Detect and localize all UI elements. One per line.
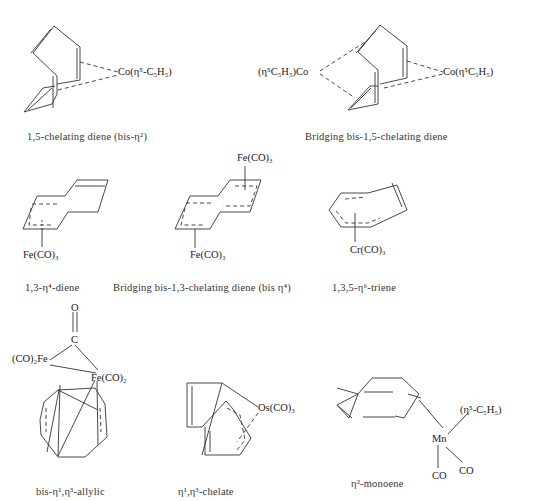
s2-co-left-label: (η⁵C₅H₅)Co xyxy=(258,66,308,77)
s6-fe-right-label: Fe(CO)₂ xyxy=(91,372,127,383)
s8-mn-label: Mn xyxy=(432,433,447,444)
s8-co-2-label: CO xyxy=(459,465,474,476)
caption-s6: bis-η¹,η³-allylic xyxy=(36,486,105,497)
caption-s5: 1,3,5-η⁶-triene xyxy=(332,282,396,293)
structure-5-triene-cr xyxy=(329,183,407,242)
structure-1-cod-co xyxy=(24,26,118,112)
s5-cr-label: Cr(CO)₃ xyxy=(350,244,386,255)
caption-s4: Bridging bis-1,3-chelating diene (bis η⁴… xyxy=(113,282,291,293)
s8-co-1-label: CO xyxy=(432,470,447,481)
caption-s2: Bridging bis-1,5-chelating diene xyxy=(305,131,448,142)
s8-cp-label: (η⁵-C₅H₅) xyxy=(460,404,502,415)
s4-fe-top-label: Fe(CO)₃ xyxy=(237,152,273,163)
structure-8-monoene-mn xyxy=(337,378,468,468)
s6-c-label: C xyxy=(71,334,78,345)
structure-4-bridging-diene-fe xyxy=(175,166,261,248)
structure-3-diene-fe xyxy=(23,180,108,247)
s4-fe-bottom-label: Fe(CO)₃ xyxy=(190,249,226,260)
s3-fe-label: Fe(CO)₃ xyxy=(23,249,59,260)
caption-s7: η¹,η³-chelate xyxy=(178,486,234,497)
caption-s8: η²-monoene xyxy=(351,478,404,489)
s6-o-label: O xyxy=(71,302,79,313)
caption-s1: 1,5-chelating diene (bis-η²) xyxy=(27,131,147,142)
caption-s3: 1,3-η⁴-diene xyxy=(25,282,79,293)
s7-os-label: Os(CO)₃ xyxy=(258,402,295,413)
s1-co-label: Co(η⁵-C₅H₅) xyxy=(118,66,172,77)
structure-7-chelate-os xyxy=(187,383,258,455)
structure-2-bridging-cod xyxy=(320,25,443,110)
s2-co-right-label: Co(η⁵C₅H₅) xyxy=(443,66,493,77)
s6-fe-left-label: (CO)₂Fe xyxy=(12,353,48,364)
